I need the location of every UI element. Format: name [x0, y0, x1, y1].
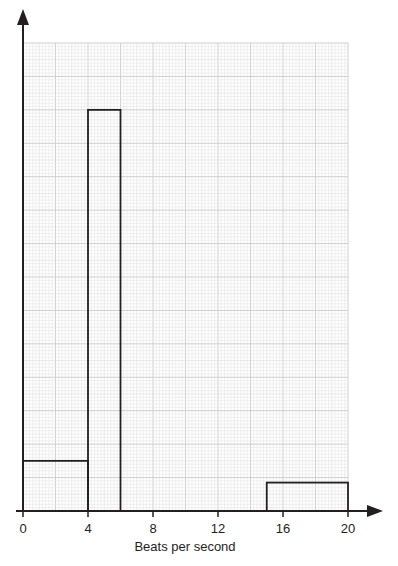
histogram-chart: 048121620 Beats per second	[0, 0, 398, 566]
x-tick-label: 4	[84, 521, 91, 536]
x-tick-label: 12	[211, 521, 225, 536]
graph-paper-grid	[23, 43, 348, 511]
x-axis-title: Beats per second	[134, 539, 235, 554]
x-axis-ticks: 048121620	[19, 511, 355, 536]
x-tick-label: 0	[19, 521, 26, 536]
x-tick-label: 8	[149, 521, 156, 536]
x-tick-label: 20	[341, 521, 355, 536]
x-axis-arrow-icon	[367, 505, 383, 517]
x-tick-label: 16	[276, 521, 290, 536]
histogram-bar	[267, 483, 348, 511]
y-axis-arrow-icon	[17, 9, 29, 25]
